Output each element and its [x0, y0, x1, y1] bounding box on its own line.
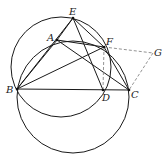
- circle-BAFC: [17, 41, 129, 153]
- point-F: [103, 46, 106, 49]
- label-F: F: [105, 36, 114, 47]
- segment-BF: [17, 47, 104, 89]
- point-A: [56, 39, 59, 42]
- point-D: [102, 89, 105, 92]
- dashed-segment-FD: [103, 47, 104, 90]
- label-A: A: [46, 32, 54, 43]
- dashed-segment-GC: [129, 53, 153, 90]
- geometry-diagram: A B C D E F G: [0, 0, 164, 157]
- segment-BE: [17, 18, 73, 89]
- label-B: B: [5, 84, 13, 95]
- label-D: D: [101, 92, 110, 103]
- point-E: [72, 17, 75, 20]
- label-C: C: [131, 89, 139, 100]
- label-E: E: [68, 6, 77, 17]
- point-C: [128, 89, 131, 92]
- dashed-segment-FG: [104, 47, 153, 53]
- segment-BC: [17, 89, 129, 90]
- point-B: [16, 88, 19, 91]
- label-G: G: [154, 47, 162, 58]
